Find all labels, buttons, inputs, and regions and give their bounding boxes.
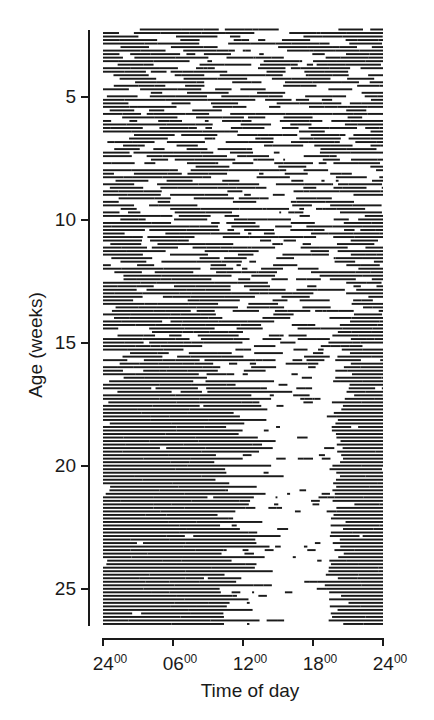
x-tick-hour: 06: [163, 653, 184, 674]
x-tick-hour: 24: [373, 653, 394, 674]
x-tick-minutes: 00: [254, 652, 267, 666]
x-tick-label: 0600: [163, 652, 198, 675]
x-tick-hour: 12: [233, 653, 254, 674]
actogram-plot: [103, 28, 383, 626]
y-tick-mark: [81, 588, 89, 590]
x-tick-label: 2400: [373, 652, 408, 675]
x-tick-label: 1200: [233, 652, 268, 675]
x-tick-mark: [172, 638, 174, 646]
x-tick-hour: 18: [303, 653, 324, 674]
y-axis-line: [88, 30, 90, 626]
y-tick-mark: [81, 219, 89, 221]
y-axis-title: Age (weeks): [25, 292, 47, 398]
x-axis-title: Time of day: [201, 680, 300, 702]
x-tick-mark: [242, 638, 244, 646]
x-tick-mark: [102, 638, 104, 646]
x-tick-label: 1800: [303, 652, 338, 675]
y-tick-mark: [81, 96, 89, 98]
y-tick-label: 20: [36, 456, 76, 476]
x-tick-minutes: 00: [394, 652, 407, 666]
x-tick-mark: [312, 638, 314, 646]
y-tick-label: 5: [36, 87, 76, 107]
x-tick-minutes: 00: [184, 652, 197, 666]
actogram-figure: 510152025 Age (weeks) 240006001200180024…: [0, 0, 434, 720]
x-tick-minutes: 00: [324, 652, 337, 666]
x-tick-mark: [382, 638, 384, 646]
x-tick-hour: 24: [93, 653, 114, 674]
y-tick-mark: [81, 342, 89, 344]
x-tick-minutes: 00: [114, 652, 127, 666]
y-tick-label: 10: [36, 210, 76, 230]
y-tick-label: 25: [36, 579, 76, 599]
y-tick-mark: [81, 465, 89, 467]
x-tick-label: 2400: [93, 652, 128, 675]
